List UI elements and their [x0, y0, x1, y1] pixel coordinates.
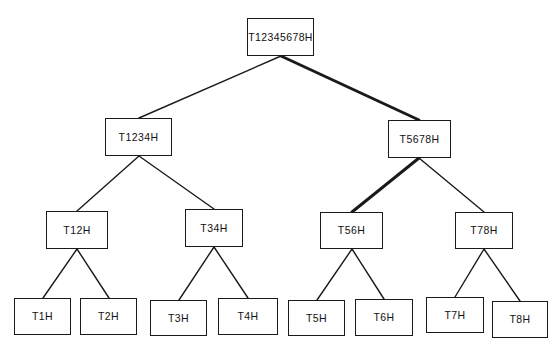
- tree-node-t1234[interactable]: T1234H: [105, 118, 172, 156]
- tree-node-t5[interactable]: T5H: [288, 300, 345, 336]
- tree-node-label: T78H: [470, 225, 497, 236]
- tree-node-label: T8H: [509, 314, 530, 325]
- tree-node-label: T5678H: [400, 134, 440, 145]
- tree-node-t34[interactable]: T34H: [185, 209, 243, 247]
- tree-node-label: T56H: [338, 225, 365, 236]
- tree-edge-t12-to-t1: [43, 249, 77, 298]
- tree-node-label: T3H: [168, 313, 189, 324]
- tree-node-t7[interactable]: T7H: [426, 297, 484, 333]
- tree-node-label: T6H: [373, 312, 394, 323]
- tree-edge-t34-to-t3: [179, 247, 214, 300]
- tree-edge-t56-to-t6: [352, 249, 384, 299]
- tree-node-label: T7H: [444, 310, 465, 321]
- tree-edge-t78-to-t7: [455, 249, 484, 297]
- tree-edge-t12-to-t2: [77, 249, 109, 298]
- tree-node-label: T4H: [237, 311, 258, 322]
- tree-diagram-canvas: T12345678HT1234HT5678HT12HT34HT56HT78HT1…: [0, 0, 554, 349]
- tree-edge-root-to-t1234: [139, 56, 281, 118]
- tree-node-t56[interactable]: T56H: [320, 212, 383, 249]
- tree-node-t6[interactable]: T6H: [355, 299, 413, 336]
- tree-edge-t1234-to-t34: [139, 156, 214, 209]
- tree-edge-t5678-to-t78: [419, 158, 484, 212]
- tree-node-t5678[interactable]: T5678H: [388, 120, 451, 158]
- tree-node-label: T34H: [200, 223, 227, 234]
- tree-node-label: T2H: [98, 311, 119, 322]
- tree-node-t12[interactable]: T12H: [46, 211, 108, 249]
- tree-node-root[interactable]: T12345678H: [247, 18, 314, 56]
- tree-edge-root-to-t5678: [281, 56, 419, 120]
- tree-node-t1[interactable]: T1H: [14, 298, 71, 335]
- tree-edge-t1234-to-t12: [77, 156, 139, 211]
- tree-node-t8[interactable]: T8H: [492, 301, 548, 338]
- tree-edge-t34-to-t4: [214, 247, 248, 298]
- tree-node-t78[interactable]: T78H: [455, 212, 513, 249]
- tree-node-label: T5H: [306, 313, 327, 324]
- tree-node-label: T1H: [32, 311, 53, 322]
- tree-node-label: T12345678H: [248, 32, 313, 43]
- tree-node-t3[interactable]: T3H: [150, 300, 207, 336]
- tree-node-label: T1234H: [119, 132, 159, 143]
- tree-edge-t56-to-t5: [317, 249, 352, 300]
- tree-node-t4[interactable]: T4H: [218, 298, 278, 335]
- tree-node-t2[interactable]: T2H: [80, 298, 137, 335]
- tree-edge-t78-to-t8: [484, 249, 520, 301]
- tree-node-label: T12H: [63, 225, 90, 236]
- tree-edge-t5678-to-t56: [352, 158, 419, 212]
